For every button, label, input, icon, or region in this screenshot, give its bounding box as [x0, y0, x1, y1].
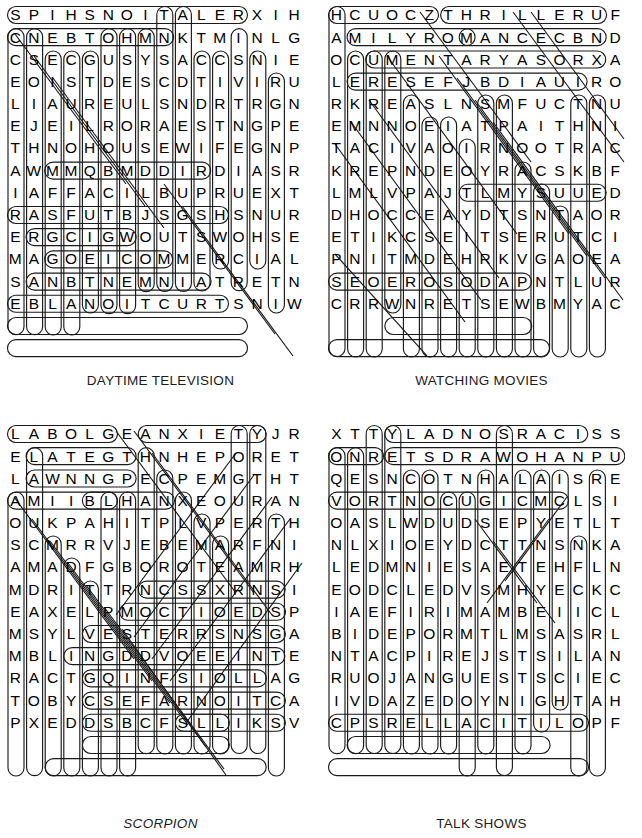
grid-cell: Y [62, 689, 81, 711]
grid-cell: O [346, 578, 365, 600]
grid-cell: T [248, 467, 267, 489]
grid-cell: V [285, 711, 304, 733]
grid-cell: D [420, 512, 439, 534]
grid-cell: V [513, 248, 532, 270]
grid-cell: S [155, 48, 174, 70]
grid-cell: H [457, 248, 476, 270]
grid-cell: R [248, 445, 267, 467]
grid-cell: N [80, 467, 99, 489]
grid-cell: R [118, 578, 137, 600]
grid-cell: P [401, 645, 420, 667]
grid-cell: E [192, 645, 211, 667]
grid-cell: K [569, 159, 588, 181]
grid-cell: Y [439, 534, 458, 556]
grid-cell: P [118, 467, 137, 489]
grid-cell: F [155, 667, 174, 689]
grid-cell: Y [43, 623, 62, 645]
grid-cell: R [62, 534, 81, 556]
grid-cell: L [136, 93, 155, 115]
grid-cell: E [118, 423, 137, 445]
grid-cell: B [118, 204, 137, 226]
grid-cell: L [401, 423, 420, 445]
grid-cell: A [285, 689, 304, 711]
grid-cell: R [229, 4, 248, 26]
grid-cell: A [401, 93, 420, 115]
grid-cell: C [606, 578, 625, 600]
grid-cell: E [383, 71, 402, 93]
grid-cell: A [192, 270, 211, 292]
grid-cell: I [569, 667, 588, 689]
grid-cell: T [457, 292, 476, 314]
grid-cell: C [155, 578, 174, 600]
grid-cell: R [229, 578, 248, 600]
grid-cell: C [550, 26, 569, 48]
grid-cell: O [229, 226, 248, 248]
grid-cell: L [173, 512, 192, 534]
grid-cell: L [606, 601, 625, 623]
grid-cell: E [80, 248, 99, 270]
grid-cell: X [248, 4, 267, 26]
grid-cell: I [43, 71, 62, 93]
grid-cell: H [99, 512, 118, 534]
grid-cell: F [80, 556, 99, 578]
grid-cell: S [550, 534, 569, 556]
grid-cell: M [457, 623, 476, 645]
grid-cell: F [606, 4, 625, 26]
grid-cell: D [439, 445, 458, 467]
grid-cell: O [457, 159, 476, 181]
grid-cell: E [6, 601, 25, 623]
grid-cell: U [155, 226, 174, 248]
grid-cell: C [383, 578, 402, 600]
grid-cell: C [229, 248, 248, 270]
grid-cell: T [80, 578, 99, 600]
grid-cell: G [99, 645, 118, 667]
grid-cell: P [266, 115, 285, 137]
grid-cell: L [569, 645, 588, 667]
grid-cell: D [457, 512, 476, 534]
grid-cell: I [229, 711, 248, 733]
grid-cell: S [420, 93, 439, 115]
grid-cell: B [476, 71, 495, 93]
grid-cell: Y [476, 159, 495, 181]
grid-cell: O [229, 445, 248, 467]
grid-cell: S [118, 623, 137, 645]
grid-cell: E [346, 556, 365, 578]
grid-cell: T [211, 270, 230, 292]
grid-cell: B [587, 159, 606, 181]
grid-cell: L [327, 556, 346, 578]
grid-cell: G [532, 689, 551, 711]
grid-cell: D [364, 623, 383, 645]
grid-cell: P [192, 182, 211, 204]
grid-cell: R [6, 667, 25, 689]
grid-cell: H [346, 204, 365, 226]
grid-cell: E [346, 467, 365, 489]
grid-cell: V [346, 689, 365, 711]
grid-cell: C [62, 226, 81, 248]
grid-cell: O [62, 248, 81, 270]
grid-cell: L [6, 423, 25, 445]
grid-cell: A [420, 182, 439, 204]
grid-cell: A [346, 601, 365, 623]
grid-cell: I [494, 490, 513, 512]
grid-cell: G [532, 248, 551, 270]
grid-cell: T [266, 512, 285, 534]
grid-cell: G [43, 226, 62, 248]
grid-cell: X [173, 423, 192, 445]
grid-cell: I [285, 578, 304, 600]
grid-cell: D [62, 711, 81, 733]
grid-cell: N [155, 423, 174, 445]
grid-cell: O [439, 137, 458, 159]
grid-cell: S [80, 4, 99, 26]
grid-cell: U [62, 93, 81, 115]
grid-cell: E [532, 601, 551, 623]
grid-cell: C [587, 226, 606, 248]
grid-cell: A [43, 445, 62, 467]
grid-cell: G [99, 467, 118, 489]
grid-cell: S [229, 204, 248, 226]
grid-cell: A [80, 512, 99, 534]
grid-cell: F [62, 182, 81, 204]
grid-cell: E [457, 645, 476, 667]
grid-cell: R [211, 248, 230, 270]
grid-cell: C [550, 423, 569, 445]
grid-cell: N [494, 26, 513, 48]
